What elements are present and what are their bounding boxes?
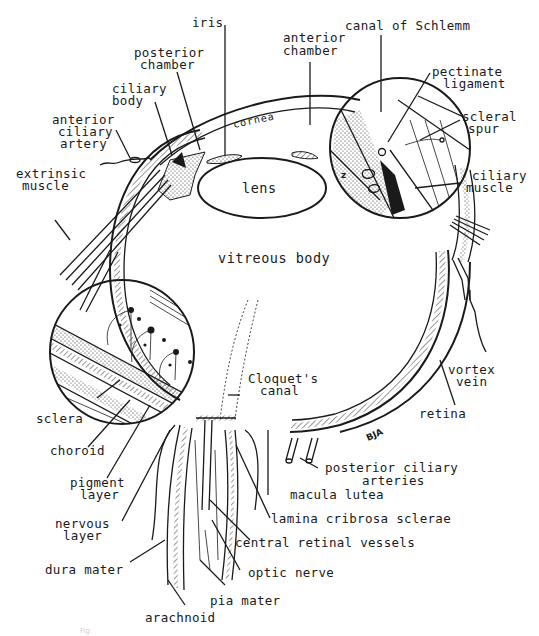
label-lamina-cribrosa-sclerae: lamina cribrosa sclerae: [271, 511, 451, 526]
label-extrinsic-muscle-2: muscle: [22, 178, 69, 193]
artist-signature: BJA: [365, 426, 385, 442]
label-pigment-layer-2: layer: [80, 487, 119, 502]
label-arachnoid: arachnoid: [145, 610, 215, 625]
inset-marker: z: [341, 170, 346, 180]
label-sclera: sclera: [36, 411, 83, 426]
label-vortex-vein-2: vein: [456, 374, 487, 389]
eye-anatomy-diagram: cornea lens: [0, 0, 539, 636]
label-vitreous-body: vitreous body: [218, 250, 330, 266]
labels: iris posterior chamber ciliary body ante…: [16, 15, 527, 635]
label-anterior-chamber-2: chamber: [283, 43, 338, 58]
figure-caption: Fig.: [80, 627, 92, 635]
label-choroid: choroid: [50, 443, 105, 458]
label-ciliary-muscle-2: muscle: [466, 180, 513, 195]
label-ciliary-body-2: body: [112, 93, 143, 108]
label-dura-mater: dura mater: [45, 562, 123, 577]
label-anterior-ciliary-artery-3: artery: [60, 136, 107, 151]
label-cloquets-canal-2: canal: [260, 383, 299, 398]
label-pia-mater: pia mater: [210, 593, 281, 608]
lens-label: lens: [242, 180, 277, 196]
label-canal-of-schlemm: canal of Schlemm: [345, 18, 470, 33]
inset-iridocorneal-angle: z: [330, 78, 470, 230]
label-macula-lutea: macula lutea: [290, 487, 384, 502]
label-posterior-chamber-2: chamber: [140, 57, 195, 72]
cornea-label: cornea: [232, 110, 275, 130]
label-optic-nerve: optic nerve: [248, 565, 334, 580]
label-scleral-spur-2: spur: [468, 121, 499, 136]
label-pectinate-ligament-2: ligament: [443, 76, 506, 91]
right-vessels: [450, 216, 490, 300]
label-iris: iris: [192, 15, 223, 30]
label-retina: retina: [419, 406, 466, 421]
label-nervous-layer-2: layer: [63, 528, 102, 543]
label-central-retinal-vessels: central retinal vessels: [235, 535, 415, 550]
label-posterior-ciliary-arteries-2: arteries: [362, 473, 425, 488]
